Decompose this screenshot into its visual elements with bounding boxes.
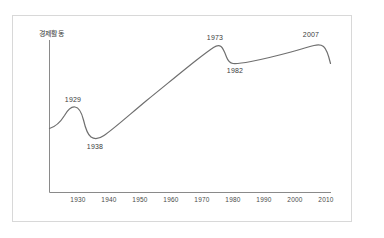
x-tick-2000: 2000 bbox=[287, 196, 302, 203]
chart-figure: 경제활동 1930 1940 1950 1960 1970 1980 1990 … bbox=[0, 0, 384, 238]
x-tick-1990: 1990 bbox=[256, 196, 271, 203]
x-tick-1950: 1950 bbox=[132, 196, 147, 203]
x-tick-1970: 1970 bbox=[194, 196, 209, 203]
annotation-1938: 1938 bbox=[87, 143, 103, 150]
economic-activity-curve bbox=[50, 45, 331, 139]
x-tick-2010: 2010 bbox=[318, 196, 333, 203]
y-axis-title: 경제활동 bbox=[39, 28, 64, 38]
annotation-1929: 1929 bbox=[65, 96, 81, 103]
annotation-2007: 2007 bbox=[303, 31, 319, 38]
x-tick-1930: 1930 bbox=[70, 196, 85, 203]
x-tick-1980: 1980 bbox=[225, 196, 240, 203]
annotation-1982: 1982 bbox=[227, 67, 243, 74]
annotation-1973: 1973 bbox=[207, 34, 223, 41]
x-tick-1960: 1960 bbox=[163, 196, 178, 203]
x-tick-1940: 1940 bbox=[101, 196, 116, 203]
